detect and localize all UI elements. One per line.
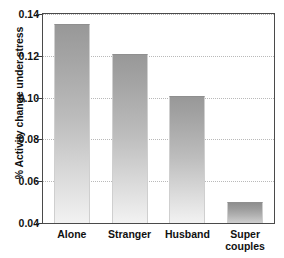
y-tick-label: 0.06 — [5, 175, 39, 187]
x-tick-label-line: couples — [216, 240, 274, 252]
x-axis-tick-labels: AloneStrangerHusbandSupercouples — [42, 228, 275, 258]
bar-stranger — [112, 54, 148, 223]
gridline — [43, 14, 274, 15]
x-tick-label-stranger: Stranger — [101, 228, 159, 240]
x-tick-label-husband: Husband — [159, 228, 217, 240]
x-tick-label-line: Husband — [159, 228, 217, 240]
plot-area — [42, 13, 275, 224]
x-tick-label-alone: Alone — [43, 228, 101, 240]
y-tick-label: 0.14 — [5, 8, 39, 20]
x-tick-label-line: Stranger — [101, 228, 159, 240]
y-tick-label: 0.10 — [5, 92, 39, 104]
x-tick-label-line: Super — [216, 228, 274, 240]
x-tick-label-line: Alone — [43, 228, 101, 240]
y-tick-label: 0.04 — [5, 217, 39, 229]
x-tick-label-super-couples: Supercouples — [216, 228, 274, 252]
bar-husband — [169, 96, 205, 223]
y-axis-tick-labels: 0.040.060.080.100.120.14 — [0, 0, 39, 258]
y-tick-label: 0.08 — [5, 133, 39, 145]
bar-super-couples — [227, 202, 263, 223]
bar-chart: % Activity change under stress 0.040.060… — [0, 0, 284, 258]
bar-alone — [54, 24, 90, 223]
y-tick-label: 0.12 — [5, 50, 39, 62]
